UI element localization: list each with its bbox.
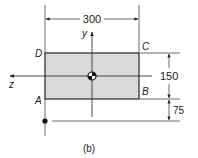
centroid-icon: [88, 72, 96, 80]
offset-dimension-label: 75: [173, 105, 185, 116]
height-dimension-label: 150: [160, 70, 178, 82]
corner-label-C: C: [142, 41, 150, 52]
width-dimension-label: 300: [83, 13, 101, 25]
y-axis-label: y: [81, 28, 88, 39]
corner-label-A: A: [34, 95, 42, 106]
corner-label-D: D: [35, 48, 42, 59]
reference-point: [42, 118, 47, 123]
cross-section-diagram: 300 y z D C A B 150 75 (b): [0, 0, 198, 158]
z-axis-label: z: [8, 79, 14, 90]
figure-caption: (b): [83, 143, 95, 154]
corner-label-B: B: [142, 86, 149, 97]
